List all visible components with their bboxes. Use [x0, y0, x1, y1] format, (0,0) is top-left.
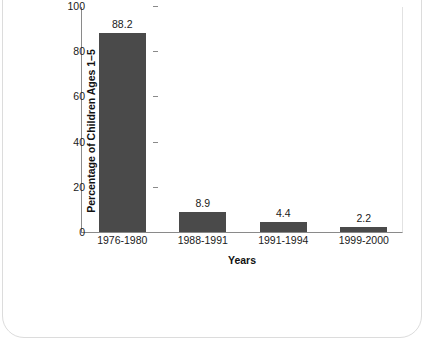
bar: [99, 33, 146, 232]
y-tick-label: 80: [59, 45, 85, 57]
bar: [340, 227, 387, 232]
bar-group: 4.41991-1994: [260, 6, 307, 232]
x-tick-label: 1988-1991: [157, 234, 248, 246]
bar: [179, 212, 226, 232]
bar-value-label: 8.9: [161, 197, 244, 209]
y-tick-mark: [153, 51, 158, 52]
bar-value-label: 4.4: [242, 207, 325, 219]
figure-card: Children in U.S. With Elevated Blood Lea…: [2, 0, 422, 338]
plot-area: Percentage of Children Ages 1–5 02040608…: [81, 7, 403, 233]
y-tick-label: 20: [59, 181, 85, 193]
bar-group: 88.21976-1980: [99, 6, 146, 232]
y-tick-mark: [153, 187, 158, 188]
bar: [260, 222, 307, 232]
y-tick-label: 60: [59, 90, 85, 102]
bar-value-label: 88.2: [81, 18, 164, 30]
bar-group: 8.91988-1991: [179, 6, 226, 232]
y-tick-label: 100: [59, 0, 85, 12]
x-tick-label: 1991-1994: [238, 234, 329, 246]
bar-group: 2.21999-2000: [340, 6, 387, 232]
x-axis-title: Years: [81, 254, 403, 266]
x-tick-label: 1999-2000: [318, 234, 409, 246]
y-tick-mark: [153, 232, 158, 233]
y-tick-mark: [153, 6, 158, 7]
y-tick-label: 40: [59, 136, 85, 148]
x-tick-label: 1976-1980: [77, 234, 168, 246]
y-tick-mark: [153, 142, 158, 143]
bar-value-label: 2.2: [322, 212, 405, 224]
y-axis-title: Percentage of Children Ages 1–5: [85, 1, 97, 261]
y-tick-mark: [153, 96, 158, 97]
